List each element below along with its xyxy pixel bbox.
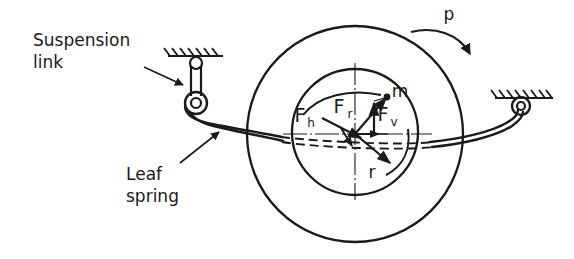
force-vertical-base: F <box>378 103 389 125</box>
force-resultant-sub: r <box>348 107 353 121</box>
rotation-label: p <box>444 4 455 24</box>
rotation-direction-arrow <box>411 30 470 54</box>
mass-point-marker <box>384 94 391 101</box>
right-spring-eye-outer <box>512 97 530 115</box>
force-resultant-base: F <box>334 95 345 117</box>
suspension-link-label-line2: link <box>33 52 63 72</box>
suspension-link-label-line1: Suspension <box>33 30 130 50</box>
leaf-spring-leader-line <box>180 132 219 163</box>
leaf-spring-label-line1: Leaf <box>126 164 163 184</box>
diagram-canvas: p F h F r F v <box>0 0 574 259</box>
right-spring-eye-inner <box>517 102 525 110</box>
left-ground-hatching <box>164 48 218 56</box>
leaf-spring-right-lower-leaf <box>432 112 523 147</box>
left-spring-eye-outer <box>185 92 207 114</box>
force-vertical-sub: v <box>390 115 397 129</box>
left-spring-eye-inner <box>191 98 201 108</box>
suspension-link-leader-line <box>144 67 183 85</box>
force-horizontal-base: F <box>295 104 306 126</box>
leaf-spring-label-line2: spring <box>126 186 179 206</box>
force-vertical-label: F v <box>378 103 398 129</box>
force-horizontal-sub: h <box>307 116 315 130</box>
force-horizontal-label: F h <box>295 104 315 130</box>
leaf-spring-right-upper-leaf <box>430 110 518 142</box>
leaf-spring-left-lower-leaf <box>190 112 283 141</box>
force-resultant-label: F r <box>334 95 353 121</box>
mass-point-label: m <box>392 81 409 101</box>
leaf-spring-suspension-diagram: p F h F r F v <box>0 0 574 259</box>
radius-label: r <box>369 162 376 182</box>
